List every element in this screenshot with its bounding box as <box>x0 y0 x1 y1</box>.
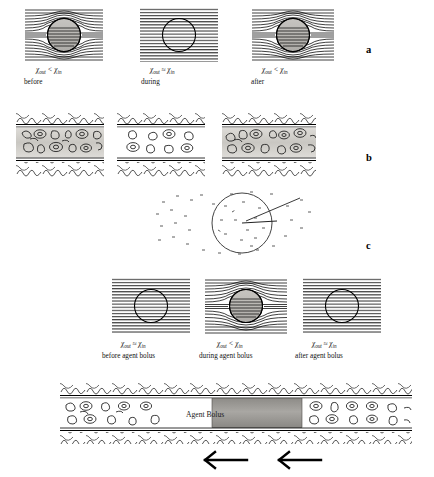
caption-a-after: χout < χin after <box>262 66 287 87</box>
state-label-during-agent-bolus: during agent bolus <box>199 352 253 362</box>
state-label-after-agent-bolus: after agent bolus <box>295 352 343 362</box>
vessel-panel-b-2 <box>117 112 205 178</box>
field-panel-a-before <box>25 8 103 62</box>
figure-root: χout < χin before χout ≈ χin during χout… <box>0 0 434 477</box>
state-label-a-before: before <box>24 78 61 88</box>
caption-before-agent-bolus: χout ≈ χin before agent bolus <box>121 340 155 361</box>
chi-expression-before-bolus: χout ≈ χin <box>121 340 146 348</box>
panel-letter-a: a <box>366 44 371 55</box>
flow-arrows <box>195 448 325 472</box>
chi-expression-after-bolus: χout ≈ χin <box>312 340 337 348</box>
agent-bolus-block <box>212 399 302 428</box>
caption-a-before: χout < χin before <box>36 66 61 87</box>
field-panel-a-after <box>252 8 334 62</box>
chi-expression-a-during: χout ≈ χin <box>150 66 175 74</box>
state-label-before-agent-bolus: before agent bolus <box>102 352 155 362</box>
lumen-clear <box>117 128 205 158</box>
state-label-a-during: during <box>141 78 175 88</box>
diffusion-trajectory-line <box>246 198 300 221</box>
chi-expression-a-before: χout < χin <box>36 66 61 74</box>
agent-bolus-label: Agent Bolus <box>186 410 224 419</box>
long-vessel-panel <box>60 382 412 444</box>
vessel-panel-b-1 <box>16 112 104 178</box>
caption-a-during: χout ≈ χin during <box>150 66 175 87</box>
field-panel-during-agent-bolus <box>205 278 287 334</box>
panel-letter-b: b <box>366 152 372 163</box>
diffusion-panel <box>150 190 325 258</box>
caption-during-agent-bolus: χout < χin during agent bolus <box>217 340 253 361</box>
field-panel-before-agent-bolus <box>112 278 190 334</box>
vessel-panel-b-3 <box>222 112 316 178</box>
panel-letter-c: c <box>366 240 371 251</box>
state-label-a-after: after <box>251 78 287 88</box>
chi-expression-a-after: χout < χin <box>262 66 287 74</box>
chi-expression-during-bolus: χout < χin <box>217 340 242 348</box>
caption-after-agent-bolus: χout ≈ χin after agent bolus <box>312 340 343 361</box>
field-panel-a-during <box>140 8 218 62</box>
field-panel-after-agent-bolus <box>303 278 381 334</box>
